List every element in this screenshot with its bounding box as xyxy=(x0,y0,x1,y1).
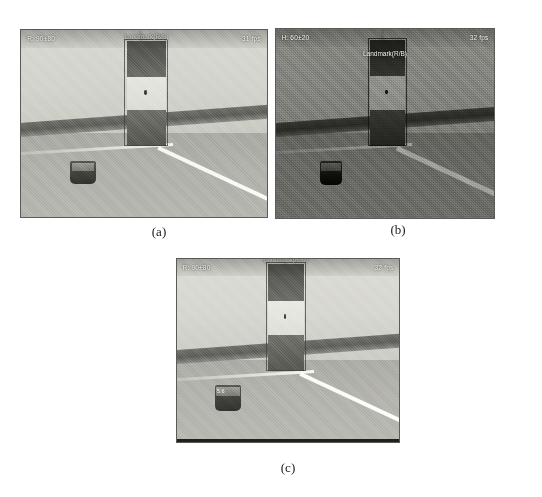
robot-box-c[interactable]: 5.6 xyxy=(215,385,242,411)
robot-top-face-a xyxy=(72,163,95,171)
landmark-cylinder-a[interactable]: Landmark(R/B) xyxy=(127,41,166,146)
landmark-cylinder-c[interactable]: Landmark(R/B) xyxy=(268,264,304,370)
panel-b-camera-view[interactable]: H: 60±20 32 fps Landmark(R/B) xyxy=(275,28,495,219)
hud-right-fps-b: 32 fps xyxy=(470,34,489,41)
scene-a: Landmark(R/B) xyxy=(21,30,267,217)
caption-c: (c) xyxy=(258,460,318,476)
hud-left-b: H: 60±20 xyxy=(281,34,309,41)
figure-three-panel-camera-views: Landmark(R/B) R: 90±80 31 fps xyxy=(0,0,542,497)
panel-c-camera-view[interactable]: Landmark(R/B) 5.6 R: 90±80 32 fps xyxy=(176,258,400,443)
hud-overlay-c: R: 90±80 32 fps xyxy=(177,259,399,276)
landmark-label-b: Landmark(R/B) xyxy=(363,50,407,57)
panel-a-camera-view[interactable]: Landmark(R/B) R: 90±80 31 fps xyxy=(20,29,268,218)
hud-left-c: R: 90±80 xyxy=(183,264,211,271)
robot-box-b[interactable] xyxy=(320,161,343,185)
robot-distance-tag-c: 5.6 xyxy=(217,388,225,394)
hud-left-a: R: 90±80 xyxy=(27,35,55,42)
hud-overlay-b: H: 60±20 32 fps xyxy=(276,29,494,47)
caption-b: (b) xyxy=(368,222,428,238)
landmark-bounding-box-a xyxy=(124,39,168,146)
scene-b xyxy=(276,29,494,218)
hud-overlay-a: R: 90±80 31 fps xyxy=(21,30,267,48)
scene-c: Landmark(R/B) 5.6 xyxy=(177,259,399,442)
robot-box-a[interactable] xyxy=(70,161,96,184)
hud-right-fps-a: 31 fps xyxy=(242,35,261,42)
robot-top-face-b xyxy=(321,163,341,171)
panel-c-bottom-rule xyxy=(177,439,399,442)
caption-a: (a) xyxy=(129,224,189,240)
hud-right-fps-c: 32 fps xyxy=(375,264,394,271)
landmark-bounding-box-c xyxy=(266,262,306,370)
